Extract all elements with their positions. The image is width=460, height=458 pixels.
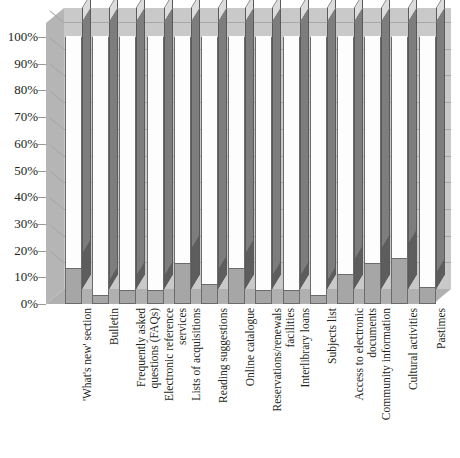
y-axis-tick-mark: [38, 37, 46, 38]
x-axis-label: Reading suggestions: [217, 308, 230, 403]
x-axis-label: Community information: [380, 308, 393, 420]
bar-front-face[interactable]: [201, 37, 218, 304]
bar-side-face: [327, 7, 336, 289]
bar-segment-lower: [93, 295, 108, 303]
bar-column[interactable]: [228, 37, 245, 304]
y-axis-tick-label: 80%: [14, 83, 38, 96]
x-axis-label-line: Reading suggestions: [217, 308, 230, 403]
bar-segment-upper: [93, 36, 108, 295]
bar-segment-upper: [284, 36, 299, 290]
bar-segment-lower: [284, 290, 299, 303]
x-axis-label: Cultural activities: [407, 308, 420, 390]
bar-segment-lower: [392, 258, 407, 303]
bar-front-face[interactable]: [364, 37, 381, 304]
y-axis-tick-mark: [38, 171, 46, 172]
x-axis-label-line: services: [175, 308, 188, 401]
y-axis-tick-mark: [38, 304, 46, 305]
x-axis-label: Access to electronicdocuments: [353, 308, 378, 401]
bar-column[interactable]: [391, 37, 408, 304]
x-axis-label-line: documents: [366, 308, 379, 401]
bar-segment-lower: [338, 274, 353, 303]
bar-column[interactable]: [65, 37, 82, 304]
y-axis-tick-label: 20%: [14, 244, 38, 257]
bar-front-face[interactable]: [65, 37, 82, 304]
y-axis-tick-mark: [38, 224, 46, 225]
x-axis-labels: 'What's new' sectionBulletinFrequently a…: [46, 306, 451, 458]
bar-segment-lower: [175, 263, 190, 303]
x-axis-label-line: Reservations/renewals: [271, 308, 284, 411]
bar-column[interactable]: [174, 37, 191, 304]
bar-front-face[interactable]: [419, 37, 436, 304]
x-axis-label-line: Access to electronic: [353, 308, 366, 401]
bar-segment-upper: [229, 36, 244, 268]
bar-column[interactable]: [310, 37, 327, 304]
bar-side-face: [272, 7, 281, 289]
bar-front-face[interactable]: [147, 37, 164, 304]
y-axis-tick-label: 10%: [14, 270, 38, 283]
bar-segment-lower: [311, 295, 326, 303]
y-axis-tick-mark: [38, 64, 46, 65]
bar-segment-upper: [365, 36, 380, 263]
x-axis-label: Frequently askedquestions (FAQs): [135, 308, 160, 389]
x-axis-label-line: Frequently asked: [135, 308, 148, 389]
bar-column[interactable]: [92, 37, 109, 304]
bar-segment-upper: [338, 36, 353, 274]
x-axis-label-line: facilities: [284, 308, 297, 411]
bar-segment-lower: [420, 287, 435, 303]
y-axis-tick-mark: [38, 277, 46, 278]
bar-segment-upper: [120, 36, 135, 290]
bar-segment-upper: [256, 36, 271, 290]
bar-segment-upper: [311, 36, 326, 295]
y-axis-tick-mark: [38, 117, 46, 118]
bar-segment-lower: [148, 290, 163, 303]
y-axis-tick-label: 60%: [14, 137, 38, 150]
y-axis: 0%10%20%30%40%50%60%70%80%90%100%: [0, 0, 46, 310]
bar-side-face: [436, 7, 445, 289]
x-axis-label-line: Cultural activities: [407, 308, 420, 390]
bar-front-face[interactable]: [391, 37, 408, 304]
y-axis-tick-label: 90%: [14, 57, 38, 70]
bars-layer: [46, 8, 451, 304]
plot-area: [46, 8, 451, 304]
bar-front-face[interactable]: [337, 37, 354, 304]
bar-segment-lower: [66, 268, 81, 303]
x-axis-label-line: Community information: [380, 308, 393, 420]
bar-column[interactable]: [337, 37, 354, 304]
x-axis-label-line: 'What's new' section: [81, 308, 94, 401]
bar-segment-lower: [120, 290, 135, 303]
x-axis-label-line: Bulletin: [108, 308, 121, 345]
bar-front-face[interactable]: [255, 37, 272, 304]
bar-front-face[interactable]: [92, 37, 109, 304]
bar-front-face[interactable]: [119, 37, 136, 304]
bar-segment-lower: [365, 263, 380, 303]
bar-segment-lower: [256, 290, 271, 303]
bar-column[interactable]: [201, 37, 218, 304]
bar-column[interactable]: [419, 37, 436, 304]
x-axis-label-line: Electronic reference: [163, 308, 176, 401]
x-axis-label-line: Interlibrary loans: [299, 308, 312, 388]
bar-column[interactable]: [364, 37, 381, 304]
bar-side-face: [300, 7, 309, 289]
bar-column[interactable]: [119, 37, 136, 304]
x-axis-label: Lists of acquisitions: [190, 308, 203, 401]
bar-segment-lower: [202, 284, 217, 303]
y-axis-tick-mark: [38, 251, 46, 252]
bar-front-face[interactable]: [310, 37, 327, 304]
y-axis-tick-mark: [38, 144, 46, 145]
y-axis-tick-label: 50%: [14, 164, 38, 177]
bar-column[interactable]: [255, 37, 272, 304]
bar-front-face[interactable]: [228, 37, 245, 304]
y-axis-tick-mark: [38, 197, 46, 198]
x-axis-label: Bulletin: [108, 308, 121, 345]
x-axis-label: Online catalogue: [244, 308, 257, 386]
bar-column[interactable]: [283, 37, 300, 304]
bar-front-face[interactable]: [174, 37, 191, 304]
bar-chart: 0%10%20%30%40%50%60%70%80%90%100% 'What'…: [0, 0, 460, 458]
y-axis-tick-label: 70%: [14, 110, 38, 123]
bar-side-face: [109, 7, 118, 289]
bar-column[interactable]: [147, 37, 164, 304]
bar-front-face[interactable]: [283, 37, 300, 304]
bar-segment-upper: [202, 36, 217, 284]
x-axis-label: Electronic referenceservices: [163, 308, 188, 401]
y-axis-tick-label: 40%: [14, 190, 38, 203]
